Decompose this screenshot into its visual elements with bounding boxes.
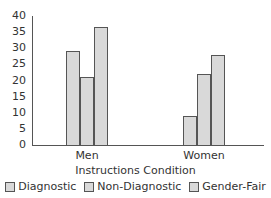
y-axis (32, 16, 33, 145)
y-tick-label: 5 (2, 122, 26, 135)
legend: DiagnosticNon-DiagnosticGender-Fair (0, 180, 271, 193)
legend-label: Diagnostic (18, 180, 76, 193)
bar-diagnostic-men (66, 51, 80, 146)
y-tick-label: 25 (2, 57, 26, 70)
y-tick-label: 35 (2, 25, 26, 38)
legend-item: Diagnostic (5, 180, 76, 193)
y-tick-label: 20 (2, 74, 26, 87)
bar-diagnostic-women (183, 116, 197, 146)
bar-chart: 0510152025303540 MenWomen Instructions C… (0, 0, 271, 198)
category-label: Men (57, 149, 117, 162)
x-axis-label: Instructions Condition (0, 164, 271, 177)
y-tick-label: 10 (2, 106, 26, 119)
y-tick-label: 40 (2, 9, 26, 22)
y-tick-label: 15 (2, 90, 26, 103)
legend-swatch-icon (84, 182, 94, 192)
legend-label: Gender-Fair (202, 180, 265, 193)
legend-item: Gender-Fair (189, 180, 265, 193)
y-tick-label: 0 (2, 138, 26, 151)
bar-gender-fair-men (94, 27, 108, 146)
bar-non-diagnostic-women (197, 74, 211, 146)
legend-swatch-icon (189, 182, 199, 192)
legend-label: Non-Diagnostic (97, 180, 181, 193)
bar-non-diagnostic-men (80, 77, 94, 146)
y-tick-label: 30 (2, 41, 26, 54)
legend-swatch-icon (5, 182, 15, 192)
legend-item: Non-Diagnostic (84, 180, 181, 193)
bar-gender-fair-women (211, 55, 225, 146)
category-label: Women (174, 149, 234, 162)
